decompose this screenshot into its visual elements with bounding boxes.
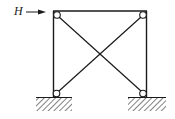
arrowhead-icon [38,10,46,15]
hinge-bottom-right [140,90,147,97]
hinge-bottom-left [53,90,60,97]
ground-support-right [128,98,166,112]
hinge-top-right [140,12,147,19]
ground-support-left [36,98,72,112]
load-label: H [14,4,23,18]
frame-svg [0,0,175,119]
load-arrow [26,10,46,15]
braced-frame-diagram: H [0,0,175,119]
hinge-top-left [54,12,61,19]
